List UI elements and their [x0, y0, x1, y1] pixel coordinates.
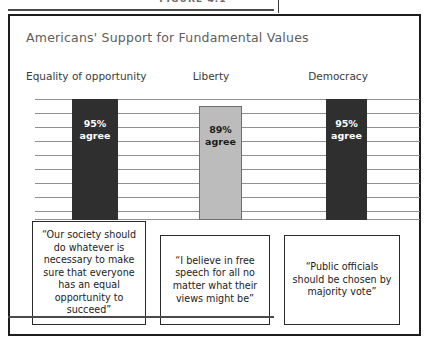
quote-text: “Public officials should be chosen by ma… [290, 261, 394, 299]
quote-box-democracy: “Public officials should be chosen by ma… [284, 235, 400, 325]
quote-box-equality-of-opportunity: “Our society should do whatever is neces… [32, 221, 146, 325]
quote-text: “Our society should do whatever is neces… [38, 229, 140, 317]
bar-sub-label: agree [331, 130, 362, 141]
bar-sub-label: agree [205, 136, 236, 147]
bottom-divider-rule [8, 316, 274, 318]
figure-caption-label: FIGURE 4.1 [118, 0, 268, 4]
figure-title: Americans' Support for Fundamental Value… [26, 30, 309, 45]
category-label-equality-of-opportunity: Equality of opportunity [26, 70, 146, 82]
bar-liberty[interactable]: 89% agree [199, 106, 242, 220]
figure-frame: Americans' Support for Fundamental Value… [8, 14, 421, 336]
bar-value-label: 95% [84, 118, 107, 129]
quote-box-liberty: “I believe in free speech for all no mat… [160, 235, 270, 325]
figure-page: FIGURE 4.1 Americans' Support for Fundam… [0, 0, 433, 345]
bar-democracy[interactable]: 95% agree [326, 99, 367, 220]
caption-divider-rule [8, 9, 274, 11]
caption-vertical-tick [278, 0, 279, 13]
bar-value-label: 89% [209, 124, 232, 135]
bar-equality-of-opportunity[interactable]: 95% agree [72, 99, 118, 220]
quote-text: “I believe in free speech for all no mat… [166, 255, 264, 305]
figure-caption-strip: FIGURE 4.1 [0, 0, 433, 14]
category-label-democracy: Democracy [293, 70, 383, 82]
bar-sub-label: agree [80, 130, 111, 141]
chart-bars: 95% agree 89% agree 95% agree [19, 88, 414, 220]
bar-chart-plot-area: 95% agree 89% agree 95% agree [19, 88, 414, 220]
category-label-liberty: Liberty [171, 70, 251, 82]
bar-value-label: 95% [335, 118, 358, 129]
